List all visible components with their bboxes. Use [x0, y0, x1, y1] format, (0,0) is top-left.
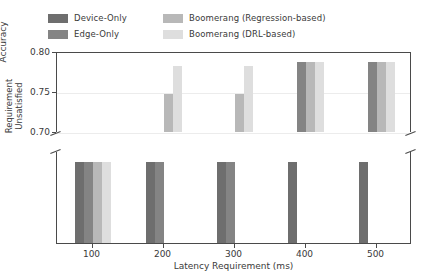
legend-row-1: Device-Only	[48, 12, 127, 24]
unsatisfied-bar-100-boomerang-regression-based	[93, 162, 102, 243]
legend-entry-device-only: Device-Only	[48, 13, 127, 23]
accuracy-panel	[56, 52, 411, 132]
accuracy-bar-200-boomerang-regression-based	[164, 94, 173, 132]
legend-entry-boomerang-drl: Boomerang (DRL-based)	[163, 29, 295, 39]
x-axis-title: Latency Requirement (ms)	[56, 261, 411, 271]
legend-label-boomerang-regression: Boomerang (Regression-based)	[189, 13, 326, 23]
requirement-unsatisfied-panel	[56, 152, 411, 244]
x-tick-label-300: 300	[225, 249, 242, 259]
unsatisfied-bar-500-device-only	[359, 162, 368, 243]
x-tick-300	[234, 244, 235, 248]
legend-row-2: Edge-Only	[48, 28, 119, 40]
y-tick-0.80	[52, 52, 56, 53]
y-tick-0.75	[52, 92, 56, 93]
legend-label-device-only: Device-Only	[74, 13, 127, 23]
accuracy-bar-300-boomerang-regression-based	[235, 94, 244, 132]
x-tick-label-400: 400	[296, 249, 313, 259]
x-tick-label-500: 500	[367, 249, 384, 259]
unsatisfied-bar-200-edge-only	[155, 162, 164, 243]
chart-legend: Device-Only Edge-Only Boomerang (Regress…	[48, 12, 348, 42]
unsatisfied-bar-400-device-only	[288, 162, 297, 243]
accuracy-bar-500-edge-only	[368, 62, 377, 132]
legend-label-edge-only: Edge-Only	[74, 29, 119, 39]
unsatisfied-bar-300-edge-only	[226, 162, 235, 243]
requirement-unsatisfied-axis-title-line-0: Requirement	[4, 60, 14, 152]
legend-swatch-boomerang-drl	[163, 30, 183, 39]
y-tick-label-0.80: 0.80	[16, 47, 50, 57]
accuracy-bar-400-edge-only	[297, 62, 306, 132]
legend-entry-boomerang-regression: Boomerang (Regression-based)	[163, 13, 326, 23]
legend-entry-edge-only: Edge-Only	[48, 29, 119, 39]
x-tick-400	[305, 244, 306, 248]
accuracy-bar-400-boomerang-drl-based	[315, 62, 324, 132]
x-tick-label-200: 200	[154, 249, 171, 259]
accuracy-bar-500-boomerang-regression-based	[377, 62, 386, 132]
requirement-unsatisfied-axis-title-line-1: Unsatisfied	[14, 60, 24, 152]
unsatisfied-bar-100-edge-only	[84, 162, 93, 243]
unsatisfied-bar-200-device-only	[146, 162, 155, 243]
x-tick-label-100: 100	[83, 249, 100, 259]
legend-swatch-device-only	[48, 14, 68, 23]
accuracy-latency-broken-axis-chart: Device-Only Edge-Only Boomerang (Regress…	[0, 0, 439, 280]
unsatisfied-bar-100-device-only	[75, 162, 84, 243]
accuracy-bar-500-boomerang-drl-based	[386, 62, 395, 132]
legend-label-boomerang-drl: Boomerang (DRL-based)	[189, 29, 295, 39]
requirement-unsatisfied-axis-title: RequirementUnsatisfied	[4, 60, 24, 152]
x-tick-200	[163, 244, 164, 248]
legend-row-4: Boomerang (DRL-based)	[163, 28, 295, 40]
legend-swatch-edge-only	[48, 30, 68, 39]
accuracy-bar-400-boomerang-regression-based	[306, 62, 315, 132]
legend-row-3: Boomerang (Regression-based)	[163, 12, 326, 24]
gridline-0.70	[57, 133, 410, 134]
accuracy-bar-200-boomerang-drl-based	[173, 66, 182, 132]
unsatisfied-bar-100-boomerang-drl-based	[102, 162, 111, 243]
x-tick-500	[376, 244, 377, 248]
unsatisfied-bar-300-device-only	[217, 162, 226, 243]
gridline-0.75	[57, 93, 410, 94]
accuracy-bar-300-boomerang-drl-based	[244, 66, 253, 132]
x-tick-100	[92, 244, 93, 248]
legend-swatch-boomerang-regression	[163, 14, 183, 23]
